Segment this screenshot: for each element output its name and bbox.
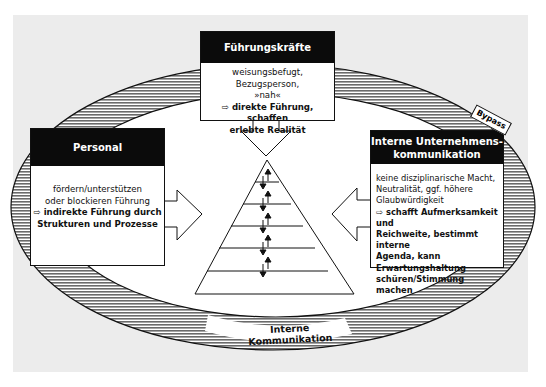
text-line: weisungsbefugt, Bezugsperson, bbox=[201, 67, 334, 90]
text-line: Neutralität, ggf. höhere bbox=[376, 184, 503, 195]
text-line: oder blockieren Führung bbox=[31, 196, 164, 208]
personal-title: Personal bbox=[31, 129, 164, 166]
personal-description: fördern/unterstützen oder blockieren Füh… bbox=[31, 166, 164, 230]
text-line: indirekte Führung durch bbox=[44, 207, 162, 217]
fuehrungskraefte-box: Führungskräfte weisungsbefugt, Bezugsper… bbox=[200, 31, 335, 121]
text-line: erlebte Realität bbox=[201, 125, 334, 137]
text-line: Glaubwürdigkeit bbox=[376, 195, 503, 206]
text-line: keine disziplinarische Macht, bbox=[376, 173, 503, 184]
text-line: fördern/unterstützen bbox=[31, 184, 164, 196]
text-line: Reichweite, bestimmt interne bbox=[376, 229, 503, 251]
right-arrow-icon: ⇨ bbox=[376, 207, 383, 217]
interne-unternehmenskommunikation-title: Interne Unternehmens- kommunikation bbox=[371, 131, 503, 164]
interne-unternehmenskommunikation-description: keine disziplinarische Macht, Neutralitä… bbox=[371, 164, 503, 296]
title-line: Interne Unternehmens- bbox=[371, 135, 503, 148]
right-arrow-icon: ⇨ bbox=[222, 102, 229, 112]
text-line: Agenda, kann bbox=[376, 251, 503, 262]
text-line: schüren/Stimmung machen bbox=[376, 274, 503, 296]
interne-unternehmenskommunikation-box: Interne Unternehmens- kommunikation kein… bbox=[370, 130, 504, 268]
text-line: »nah« bbox=[201, 90, 334, 102]
text-line: schafft Aufmerksamkeit und bbox=[376, 207, 498, 228]
fuehrungskraefte-description: weisungsbefugt, Bezugsperson, »nah« ⇨dir… bbox=[201, 63, 334, 137]
text-line: Strukturen und Prozesse bbox=[31, 219, 164, 231]
title-line: kommunikation bbox=[371, 148, 503, 161]
personal-box: Personal fördern/unterstützen oder block… bbox=[30, 128, 165, 266]
text-line: Erwartungshaltung bbox=[376, 263, 503, 274]
fuehrungskraefte-title: Führungskräfte bbox=[201, 32, 334, 63]
right-arrow-icon: ⇨ bbox=[33, 207, 40, 217]
text-line: direkte Führung, schaffen bbox=[232, 102, 313, 124]
